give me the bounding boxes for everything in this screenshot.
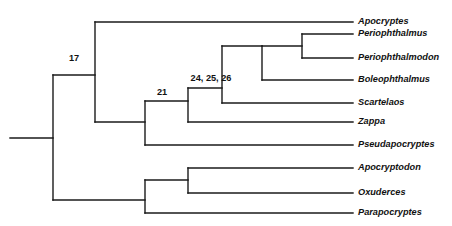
taxon-label-parapocryptes: Parapocryptes [358,207,422,217]
taxon-label-periophthalmodon: Periophthalmodon [358,52,440,62]
taxon-label-periophthalmus: Periophthalmus [358,28,427,38]
phylogenetic-tree-figure: 172124, 25, 26 ApocryptesPeriophthalmusP… [0,0,452,226]
taxon-label-pseudapocryptes: Pseudapocryptes [358,139,435,149]
taxon-label-layer: ApocryptesPeriophthalmusPeriophthalmodon… [357,16,440,217]
node-support-label-node-24-25-26: 24, 25, 26 [191,73,232,83]
taxon-label-boleophthalmus: Boleophthalmus [358,74,430,84]
branch-layer [10,22,353,213]
taxon-label-apocryptodon: Apocryptodon [357,162,421,172]
node-support-label-node-21: 21 [157,87,167,97]
taxon-label-oxuderces: Oxuderces [358,187,406,197]
taxon-label-apocryptes: Apocryptes [357,16,409,26]
taxon-label-zappa: Zappa [357,116,385,126]
tree-canvas: 172124, 25, 26 ApocryptesPeriophthalmusP… [0,0,452,226]
taxon-label-scartelaos: Scartelaos [358,97,404,107]
node-support-label-node-17: 17 [69,53,79,63]
